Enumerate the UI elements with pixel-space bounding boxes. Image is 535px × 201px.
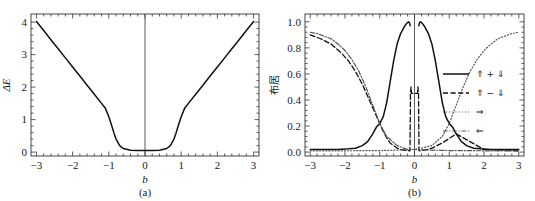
- x-tick-label: −3: [31, 159, 43, 171]
- y-tick-label: 0.6: [287, 68, 301, 80]
- figure-container: −3−2−1012301234bΔE(a) −3−2−101230.00.20.…: [0, 0, 535, 201]
- x-tick-label: 3: [251, 159, 257, 171]
- panel-b: −3−2−101230.00.20.40.60.81.0b布居(b)⇑ + ⇓⇑…: [267, 0, 534, 201]
- legend-label: ⇑ − ⇓: [476, 88, 504, 98]
- x-tick-label: 0: [142, 159, 148, 171]
- panel-caption: (b): [408, 186, 421, 199]
- x-tick-label: −3: [304, 159, 316, 171]
- x-axis-label: b: [412, 173, 418, 185]
- x-tick-label: −1: [103, 159, 115, 171]
- x-tick-label: 2: [215, 159, 221, 171]
- x-tick-label: 0: [412, 159, 418, 171]
- panel-caption: (a): [139, 186, 152, 199]
- panel-a: −3−2−1012301234bΔE(a): [0, 0, 267, 201]
- y-tick-label: 0.2: [287, 120, 301, 132]
- y-axis-label: 布居: [269, 75, 280, 95]
- x-tick-label: −2: [67, 159, 79, 171]
- x-tick-label: −1: [374, 159, 386, 171]
- y-tick-label: 0: [22, 146, 28, 158]
- x-tick-label: 3: [516, 159, 522, 171]
- x-tick-label: −2: [339, 159, 351, 171]
- legend-label: ⇒: [476, 107, 484, 117]
- y-tick-label: 0.4: [287, 94, 301, 106]
- legend-label: ⇑ + ⇓: [476, 69, 504, 79]
- y-tick-label: 0.0: [287, 146, 301, 158]
- x-tick-label: 2: [481, 159, 487, 171]
- y-axis-label: ΔE: [0, 78, 12, 92]
- y-tick-label: 2: [22, 81, 28, 93]
- x-tick-label: 1: [178, 159, 184, 171]
- x-axis-label: b: [142, 173, 148, 185]
- y-tick-label: 1: [22, 113, 28, 125]
- y-tick-label: 1.0: [287, 16, 301, 28]
- legend-label: ⇐: [476, 126, 484, 136]
- panel-a-svg: −3−2−1012301234bΔE(a): [0, 0, 267, 201]
- y-tick-label: 3: [22, 48, 28, 60]
- panel-b-svg: −3−2−101230.00.20.40.60.81.0b布居(b)⇑ + ⇓⇑…: [267, 0, 535, 201]
- y-tick-label: 0.8: [287, 42, 301, 54]
- y-tick-label: 4: [22, 16, 28, 28]
- x-tick-label: 1: [447, 159, 453, 171]
